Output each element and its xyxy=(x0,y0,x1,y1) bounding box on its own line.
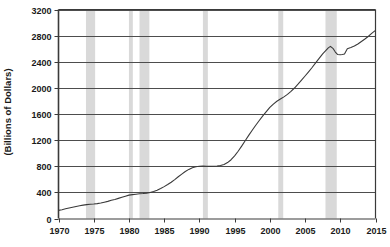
x-axis-tick-label: 1975 xyxy=(84,226,104,236)
x-axis-tick-label: 1970 xyxy=(49,226,69,236)
y-axis-tick-label: 1600 xyxy=(31,110,51,120)
x-axis-tick-label: 1990 xyxy=(189,226,209,236)
x-axis-tick-label: 2005 xyxy=(295,226,315,236)
y-axis-tick-label: 800 xyxy=(36,162,51,172)
y-axis-tick-label: 2000 xyxy=(31,84,51,94)
y-axis-tick-label: 1200 xyxy=(31,136,51,146)
x-axis-tick-label: 2015 xyxy=(366,226,386,236)
x-axis-tick-label: 2010 xyxy=(330,226,350,236)
y-axis-title: (Billions of Dollars) xyxy=(2,68,13,155)
chart-container: 0400800120016002000240028003200 19701975… xyxy=(0,0,390,247)
x-axis-tick-label: 1980 xyxy=(119,226,139,236)
line-chart: 0400800120016002000240028003200 19701975… xyxy=(0,0,390,247)
x-axis-tick-label: 2000 xyxy=(260,226,280,236)
y-axis-tick-label: 3200 xyxy=(31,6,51,16)
x-axis-tick-label: 1985 xyxy=(154,226,174,236)
y-axis-tick-label: 0 xyxy=(46,215,51,225)
x-axis-tick-label: 1995 xyxy=(225,226,245,236)
y-axis-tick-label: 2800 xyxy=(31,32,51,42)
y-axis-tick-label: 2400 xyxy=(31,58,51,68)
y-axis-tick-label: 400 xyxy=(36,188,51,198)
